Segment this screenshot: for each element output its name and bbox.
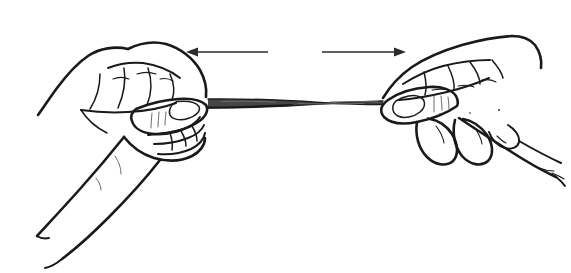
illustration-canvas: Black and white line drawing of two hand…: [0, 0, 571, 273]
hands-stretching-strand-illustration: [0, 0, 571, 273]
